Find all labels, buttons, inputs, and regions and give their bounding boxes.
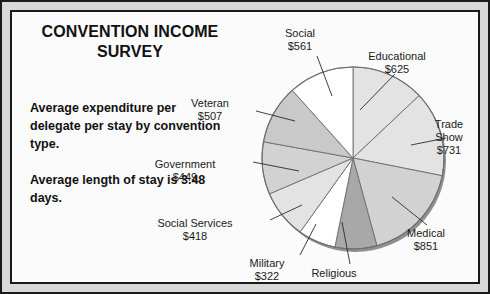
pie-label-social: Social$561 [285,27,315,53]
pie-label-religious: Religious$358 [311,267,356,284]
pie-label-line: Military [250,257,285,270]
pie-label-line: $449 [155,171,216,184]
pie-label-line: $851 [407,240,445,253]
pie-chart: Educational$625TradeShow$731Medical$851R… [12,12,480,284]
pie-label-educational: Educational$625 [368,50,426,76]
pie-label-line: Medical [407,227,445,240]
pie-label-line: Veteran [191,97,229,110]
pie-label-line: $322 [250,270,285,283]
pie-label-medical: Medical$851 [407,227,445,253]
pie-label-veteran: Veteran$507 [191,97,229,123]
pie-label-social-services: Social Services$418 [157,217,232,243]
pie-label-line: $625 [368,63,426,76]
pie-label-line: Educational [368,50,426,63]
pie-label-line: $731 [435,144,463,157]
pie-label-line: Trade [435,118,463,131]
pie-label-military: Military$322 [250,257,285,283]
pie-label-line: Social [285,27,315,40]
pie-label-line: Social Services [157,217,232,230]
pie-label-line: $561 [285,40,315,53]
pie-label-government: Government$449 [155,158,216,184]
poster-frame: CONVENTION INCOME SURVEY CONVENTION INCO… [0,0,490,294]
poster-inner-panel: CONVENTION INCOME SURVEY CONVENTION INCO… [10,10,480,284]
pie-label-line: $418 [157,230,232,243]
pie-label-line: Government [155,158,216,171]
pie-label-line: $358 [311,280,356,284]
pie-label-line: $507 [191,110,229,123]
pie-label-line: Religious [311,267,356,280]
pie-label-line: Show [435,131,463,144]
pie-label-trade-show: TradeShow$731 [435,118,463,157]
